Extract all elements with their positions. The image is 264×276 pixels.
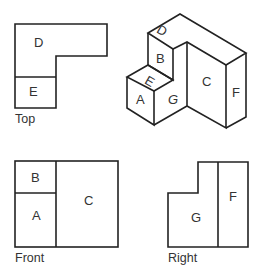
front-face-b-label: B <box>31 170 40 185</box>
front-face-c-label: C <box>84 193 93 208</box>
right-view: G F Right <box>168 162 248 265</box>
iso-face-b-label: B <box>156 51 165 66</box>
top-face-e-label: E <box>29 84 38 99</box>
top-view-caption: Top <box>15 112 35 126</box>
front-view-caption: Front <box>15 251 45 265</box>
right-face-g-label: G <box>191 210 201 225</box>
front-view: B A C Front <box>15 161 118 265</box>
iso-face-f-label: F <box>232 85 240 100</box>
iso-face-a-label: A <box>136 92 145 107</box>
isometric-view: D B E A G C F <box>127 14 246 128</box>
iso-face-g-label: G <box>168 92 178 107</box>
iso-face-d-label: D <box>154 22 170 40</box>
front-face-a-label: A <box>32 208 41 223</box>
right-view-caption: Right <box>168 251 198 265</box>
top-face-d-label: D <box>34 35 43 50</box>
iso-face-c-label: C <box>202 74 211 89</box>
orthographic-projection-diagram: D E Top D B E A G C F B A C Front <box>0 0 264 276</box>
right-face-f-label: F <box>229 189 237 204</box>
top-view: D E Top <box>15 24 107 126</box>
iso-face-e-label: E <box>142 73 157 90</box>
right-view-outline <box>168 162 248 247</box>
